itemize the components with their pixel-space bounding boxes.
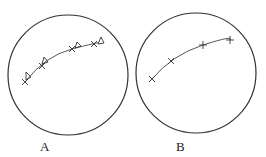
panel-a bbox=[8, 15, 128, 135]
stereonet-circle-b bbox=[136, 13, 256, 133]
panel-label-a: A bbox=[40, 139, 49, 155]
diagram-canvas bbox=[0, 0, 266, 157]
triangle-marker bbox=[26, 37, 104, 80]
great-circle-arc-a bbox=[25, 43, 98, 82]
great-circle-arc-b bbox=[152, 38, 230, 79]
cross-marker bbox=[149, 36, 234, 82]
cross-marker bbox=[22, 41, 97, 85]
panel-b bbox=[136, 13, 256, 133]
panel-label-b: B bbox=[176, 139, 185, 155]
